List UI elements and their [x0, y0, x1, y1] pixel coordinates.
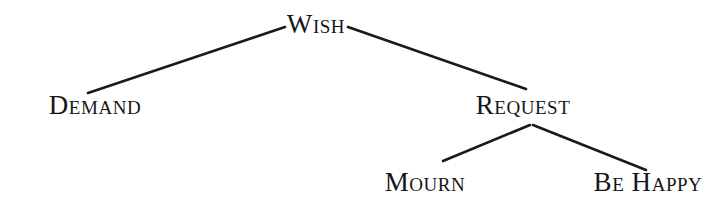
tree-node-mourn: Mourn: [385, 169, 466, 196]
edge-request-mourn: [443, 125, 530, 161]
edge-wish-request: [348, 27, 526, 89]
tree-node-wish: Wish: [287, 11, 345, 38]
tree-diagram: Wish Demand Request Mourn Be Happy: [0, 0, 722, 218]
tree-node-request: Request: [476, 92, 571, 119]
edge-request-behappy: [533, 125, 646, 170]
edge-wish-demand: [88, 27, 285, 93]
tree-node-demand: Demand: [49, 92, 141, 119]
tree-node-behappy: Be Happy: [594, 169, 703, 196]
